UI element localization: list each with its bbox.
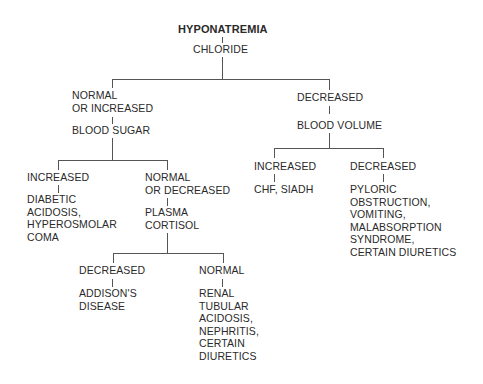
root-node-hyponatremia: HYPONATREMIA (178, 23, 268, 36)
test-node-blood-sugar: BLOOD SUGAR (72, 124, 150, 137)
diagnosis-node-diabetic-acidosis: DIABETIC ACIDOSIS, HYPEROSMOLAR COMA (27, 193, 117, 243)
result-node-blood-sugar-normal-or-decreased: NORMAL OR DECREASED (145, 171, 230, 196)
connector-line (329, 106, 330, 114)
result-node-blood-volume-increased: INCREASED (254, 160, 316, 173)
diagnosis-node-addisons-disease: ADDISON'S DISEASE (79, 287, 137, 312)
test-node-plasma-cortisol: PLASMA CORTISOL (145, 206, 199, 231)
connector-line (383, 148, 384, 158)
connector-line (113, 253, 114, 263)
result-node-blood-sugar-increased: INCREASED (27, 171, 89, 184)
connector-line (112, 79, 113, 88)
diagnosis-node-renal-tubular-acidosis: RENAL TUBULAR ACIDOSIS, NEPHRITIS, CERTA… (199, 287, 259, 362)
result-node-blood-volume-decreased: DECREASED (350, 160, 416, 173)
connector-line (112, 279, 113, 287)
connector-line (112, 117, 113, 124)
connector-line (167, 233, 168, 253)
branch-line (58, 160, 168, 161)
connector-line (383, 174, 384, 182)
connector-line (112, 138, 113, 160)
connector-line (222, 279, 223, 287)
connector-line (58, 160, 59, 170)
connector-line (167, 160, 168, 170)
diagnosis-node-chf-siadh: CHF, SIADH (254, 183, 313, 196)
connector-line (167, 198, 168, 206)
connector-line (58, 185, 59, 193)
connector-line (329, 133, 330, 148)
branch-line (113, 253, 224, 254)
connector-line (274, 148, 275, 158)
connector-line (223, 253, 224, 263)
test-node-chloride: CHLORIDE (193, 43, 248, 56)
test-node-blood-volume: BLOOD VOLUME (297, 119, 382, 132)
connector-line (274, 174, 275, 182)
connector-line (329, 79, 330, 90)
result-node-cortisol-normal: NORMAL (199, 264, 245, 277)
branch-line (112, 79, 330, 80)
result-node-cortisol-decreased: DECREASED (79, 264, 145, 277)
result-node-chloride-decreased: DECREASED (297, 91, 363, 104)
connector-line (222, 57, 223, 79)
result-node-normal-or-increased: NORMAL OR INCREASED (72, 89, 153, 114)
branch-line (274, 148, 384, 149)
diagnosis-node-pyloric-obstruction: PYLORIC OBSTRUCTION, VOMITING, MALABSORP… (350, 183, 456, 258)
